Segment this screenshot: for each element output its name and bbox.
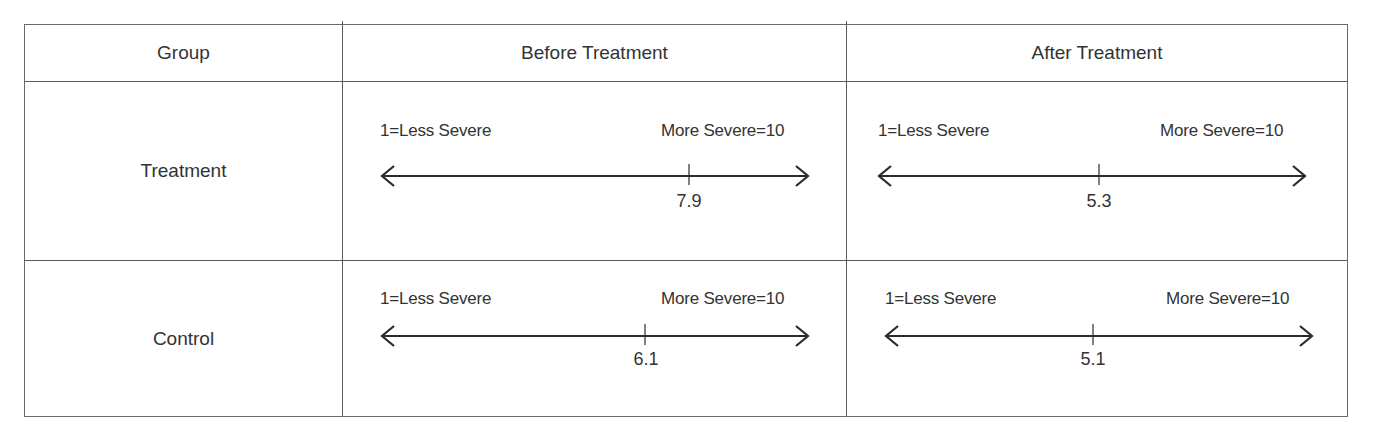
header-group: Group xyxy=(25,25,342,81)
severity-table: Group Before Treatment After Treatment T… xyxy=(24,24,1348,417)
group-control: Control xyxy=(25,261,342,417)
group-treatment: Treatment xyxy=(25,82,342,260)
double-arrow-icon xyxy=(380,121,820,161)
double-arrow-icon xyxy=(878,121,1318,161)
value-label: 5.1 xyxy=(1080,349,1105,370)
header-after-treatment: After Treatment xyxy=(847,25,1347,81)
double-arrow-icon xyxy=(380,289,820,329)
double-arrow-icon xyxy=(885,289,1325,329)
value-label: 5.3 xyxy=(1086,191,1111,212)
header-before-treatment: Before Treatment xyxy=(343,25,846,81)
value-label: 6.1 xyxy=(633,349,658,370)
value-label: 7.9 xyxy=(676,191,701,212)
